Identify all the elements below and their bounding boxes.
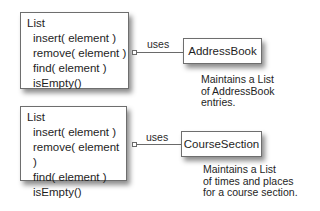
uses-label-2: uses: [146, 131, 168, 143]
note-line: Maintains a List: [203, 164, 298, 176]
list-class-box-1: List insert( element ) remove( element )…: [20, 12, 129, 89]
list-operation-insert: insert( element ): [27, 125, 126, 140]
list-operation-insert: insert( element ): [27, 31, 128, 46]
addressbook-class-name: AddressBook: [188, 45, 256, 57]
list-class-title: List: [27, 110, 126, 125]
uses-connector-2: [136, 144, 181, 145]
coursesection-class-name: CourseSection: [184, 138, 259, 150]
note-line: for a course section.: [203, 187, 298, 199]
list-operation-isempty: isEmpty(): [27, 76, 128, 91]
addressbook-class-box: AddressBook: [183, 38, 262, 64]
list-operation-remove: remove( element ): [27, 46, 128, 61]
note-line: entries.: [201, 97, 275, 109]
uses-label-1: uses: [147, 38, 169, 50]
addressbook-note: Maintains a List of AddressBook entries.: [201, 74, 275, 109]
note-line: Maintains a List: [201, 74, 275, 86]
list-operation-find: find( element ): [27, 170, 126, 185]
list-operation-find: find( element ): [27, 61, 128, 76]
list-class-title: List: [27, 16, 128, 31]
list-operation-remove: remove( element ): [27, 140, 126, 170]
coursesection-note: Maintains a List of times and places for…: [203, 164, 298, 199]
coursesection-class-box: CourseSection: [181, 131, 262, 157]
list-operation-isempty: isEmpty(): [27, 185, 126, 200]
uses-connector-1: [136, 52, 183, 53]
list-class-box-2: List insert( element ) remove( element )…: [20, 106, 127, 181]
